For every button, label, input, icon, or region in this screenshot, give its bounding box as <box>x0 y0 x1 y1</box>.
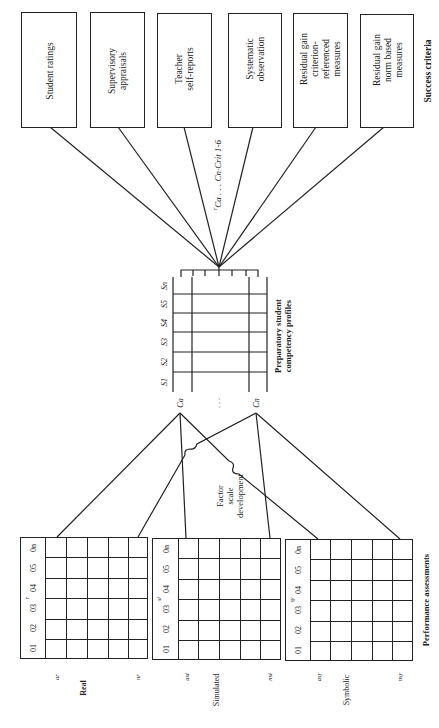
row-ca-label: Ca <box>176 398 185 407</box>
col-label: 0n <box>162 545 171 553</box>
profile-col-sn: Sn <box>160 282 169 290</box>
col-label: 0n <box>294 546 303 554</box>
col-label: 01 <box>294 646 303 654</box>
profile-col-s1: S1 <box>160 378 169 386</box>
criterion-box-residual-gain-norm: Residual gain norm based measures <box>360 14 414 128</box>
correlation-body: Ca . . . Cn·Crit 1-6 <box>213 140 223 208</box>
performance-assessments-label: Performance assessments <box>422 554 432 646</box>
row-cn-label: Cn <box>252 398 261 407</box>
grid-last-label: nr <box>134 674 141 680</box>
criterion-label: Residual gain norm based measures <box>372 34 405 86</box>
grid-symbolic: 01 02 03 04 05 0n sy <box>285 539 413 661</box>
grid-code: r <box>24 597 31 599</box>
col-label: 03 <box>162 605 171 613</box>
col-label: 02 <box>294 626 303 634</box>
criterion-label: Student ratings <box>45 42 56 99</box>
col-label: 05 <box>162 565 171 573</box>
criterion-box-teacher-self-reports: Teacher self-reports <box>157 13 212 128</box>
profile-col-s3: S3 <box>160 338 169 346</box>
grid-last-label: nsi <box>266 673 273 681</box>
profiles-label: Preparatory student competency profiles <box>274 299 294 373</box>
criterion-label: Teacher self-reports <box>174 47 196 90</box>
profile-col-s4: S4 <box>160 319 169 327</box>
criterion-box-systematic-observation: Systematic observation <box>228 13 282 128</box>
col-label: 04 <box>294 586 303 594</box>
diagram-canvas: Student ratings Supervisory appraisals T… <box>0 0 439 728</box>
col-label: 01 <box>29 644 38 652</box>
col-label: 02 <box>29 624 38 632</box>
grid-first-label: ar <box>53 674 60 680</box>
col-label: 05 <box>294 566 303 574</box>
grid-last-label: nsy <box>396 673 403 682</box>
criterion-label: Systematic observation <box>245 37 267 81</box>
criterion-box-residual-gain-criterion: Residual gain criterion- referenced meas… <box>293 13 348 128</box>
grid-name-symbolic: Symbolic <box>342 675 351 706</box>
grid-first-label: asy <box>315 673 322 682</box>
col-label: 05 <box>29 564 38 572</box>
col-label: 01 <box>162 645 171 653</box>
grid-code: si <box>156 597 163 601</box>
correlation-label: rCa . . . Cn·Crit 1-6 <box>212 140 223 210</box>
grid-simulated: 01 02 03 04 05 0n si <box>152 538 281 660</box>
factor-scale-label: Factor scale development <box>216 474 245 518</box>
grid-name-simulated: Simulated <box>212 674 221 706</box>
col-label: 04 <box>29 584 38 592</box>
criterion-box-student-ratings: Student ratings <box>21 12 77 128</box>
grid-first-label: asi <box>183 673 190 681</box>
success-criteria-label: Success criteria <box>423 39 434 102</box>
row-ellipsis: . . . <box>213 398 222 408</box>
col-label: 02 <box>162 625 171 633</box>
col-label: 03 <box>294 606 303 614</box>
grid-name-real: Real <box>79 680 88 696</box>
grid-code: sy <box>289 598 296 603</box>
criterion-box-supervisory-appraisals: Supervisory appraisals <box>90 12 145 128</box>
criterion-label: Residual gain criterion- referenced meas… <box>299 33 343 85</box>
col-label: 04 <box>162 585 171 593</box>
col-label: 03 <box>29 604 38 612</box>
correlation-prefix: r <box>212 208 218 210</box>
col-label: 0n <box>29 544 38 552</box>
profile-col-s5: S5 <box>160 300 169 308</box>
grid-real: 01 02 03 04 05 0n r <box>20 537 148 659</box>
profile-col-s2: S2 <box>160 358 169 366</box>
criterion-label: Supervisory appraisals <box>107 48 129 94</box>
